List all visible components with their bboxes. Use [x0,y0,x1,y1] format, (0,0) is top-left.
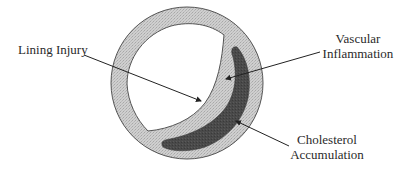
label-cholesterol-accumulation: Cholesterol Accumulation [287,132,367,162]
label-vascular-line2: Inflammation [322,46,394,61]
label-cholesterol-line1: Cholesterol [287,132,367,147]
label-vascular-line1: Vascular [322,31,394,46]
label-lining-injury: Lining Injury [18,42,88,57]
label-cholesterol-line2: Accumulation [287,147,367,162]
label-vascular-inflammation: Vascular Inflammation [322,31,394,61]
